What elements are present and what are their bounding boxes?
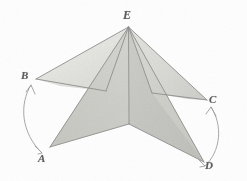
edge-E-center <box>129 27 130 124</box>
vertex-label-B: B <box>21 70 28 81</box>
arc-B-A <box>24 85 42 153</box>
arc-C-D-arrowhead-top <box>206 107 216 116</box>
arc-C-D <box>205 107 219 166</box>
vertex-label-D: D <box>205 160 213 171</box>
vertex-label-C: C <box>209 94 216 105</box>
vertex-label-A: A <box>38 153 45 164</box>
geometry-figure: E B C A D <box>0 0 247 181</box>
vertex-label-E: E <box>123 9 131 21</box>
